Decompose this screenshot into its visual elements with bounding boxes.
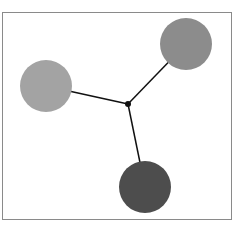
node-left — [20, 60, 72, 112]
network-diagram — [0, 0, 246, 229]
hub-node — [125, 101, 131, 107]
node-bottom — [119, 161, 171, 213]
node-top-right — [160, 18, 212, 70]
